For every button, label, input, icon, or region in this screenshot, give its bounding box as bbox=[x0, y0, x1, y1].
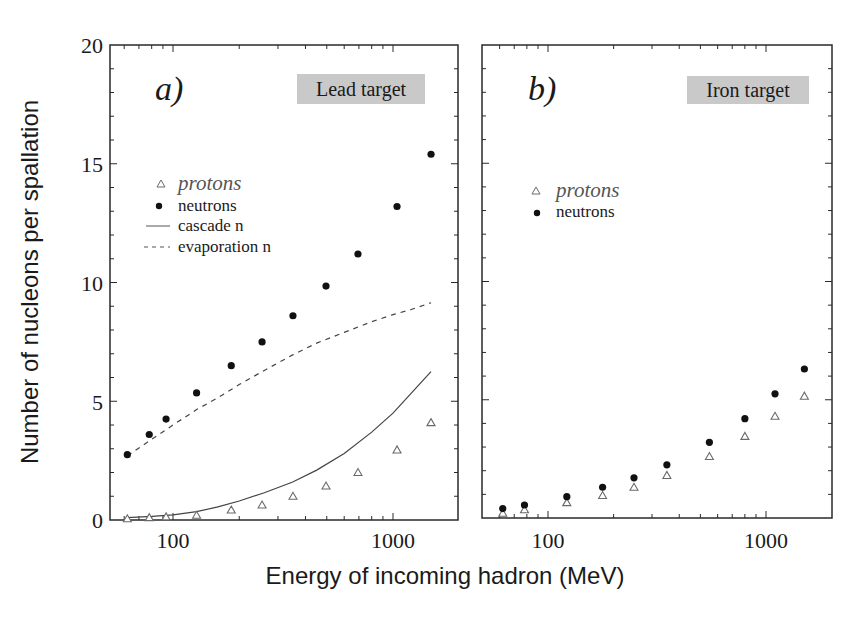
spallation-figure: Number of nucleons per spallation 0 5 10… bbox=[0, 0, 857, 620]
neutron-point bbox=[741, 415, 748, 422]
neutron-point bbox=[228, 362, 235, 369]
legend-b: protons neutrons bbox=[532, 178, 619, 221]
panel-b-letter: b) bbox=[528, 70, 556, 108]
neutron-point bbox=[289, 312, 296, 319]
x-tick-a-100: 100 bbox=[157, 528, 190, 553]
neutron-point bbox=[499, 505, 506, 512]
y-tick-5: 5 bbox=[92, 390, 103, 415]
cascade-n-curve bbox=[127, 372, 431, 518]
neutron-point bbox=[599, 484, 606, 491]
legend-a-cascade: cascade n bbox=[178, 216, 244, 235]
x-tick-a-1000: 1000 bbox=[371, 528, 415, 553]
legend-b-triangle-icon bbox=[532, 187, 540, 194]
proton-point bbox=[258, 501, 266, 508]
neutron-point bbox=[354, 250, 361, 257]
y-tick-0: 0 bbox=[92, 508, 103, 533]
neutron-point bbox=[771, 390, 778, 397]
proton-point bbox=[227, 506, 235, 513]
neutron-point bbox=[801, 365, 808, 372]
legend-a-evaporation: evaporation n bbox=[178, 237, 271, 256]
panel-iron-target: b) Iron target protons neutrons bbox=[482, 45, 832, 518]
proton-point bbox=[630, 483, 638, 490]
x-tick-b-100: 100 bbox=[532, 528, 565, 553]
x-tick-b-1000: 1000 bbox=[744, 528, 788, 553]
legend-b-circle-icon bbox=[534, 210, 540, 216]
proton-point bbox=[771, 412, 779, 419]
proton-point bbox=[741, 432, 749, 439]
neutron-point bbox=[146, 431, 153, 438]
legend-a-circle-icon bbox=[156, 203, 162, 209]
panel-a-frame bbox=[110, 45, 458, 520]
proton-point bbox=[427, 419, 435, 426]
legend-b-protons: protons bbox=[554, 178, 619, 202]
y-tick-10: 10 bbox=[81, 271, 103, 296]
legend-a-neutrons: neutrons bbox=[178, 196, 237, 215]
legend-a-triangle-icon bbox=[157, 180, 165, 187]
proton-point bbox=[800, 392, 808, 399]
proton-point bbox=[663, 471, 671, 478]
neutron-point bbox=[322, 282, 329, 289]
legend-a: protons neutrons cascade n evaporation n bbox=[144, 171, 271, 256]
panel-lead-target: a) Lead target protons neutrons cascade … bbox=[110, 45, 458, 522]
neutron-point bbox=[563, 493, 570, 500]
y-tick-labels: 0 5 10 15 20 bbox=[81, 33, 103, 533]
proton-point bbox=[705, 453, 713, 460]
x-axis-title: Energy of incoming hadron (MeV) bbox=[266, 562, 625, 589]
evaporation-n-curve bbox=[127, 303, 431, 456]
legend-a-protons: protons bbox=[176, 171, 241, 195]
proton-point bbox=[289, 492, 297, 499]
proton-point bbox=[354, 469, 362, 476]
proton-point bbox=[393, 446, 401, 453]
neutron-point bbox=[706, 439, 713, 446]
neutron-point bbox=[393, 203, 400, 210]
neutron-point bbox=[193, 389, 200, 396]
neutron-point bbox=[427, 151, 434, 158]
panel-a-ticks bbox=[110, 45, 458, 520]
y-tick-20: 20 bbox=[81, 33, 103, 58]
proton-point bbox=[599, 492, 607, 499]
panel-b-frame bbox=[482, 45, 832, 518]
iron-target-label: Iron target bbox=[706, 79, 790, 102]
panel-b-ticks bbox=[482, 45, 832, 518]
y-axis-title: Number of nucleons per spallation bbox=[16, 100, 43, 464]
neutron-point bbox=[630, 474, 637, 481]
panel-a-letter: a) bbox=[155, 70, 183, 108]
legend-b-neutrons: neutrons bbox=[556, 202, 615, 221]
lead-target-label: Lead target bbox=[316, 78, 407, 101]
neutron-point bbox=[124, 451, 131, 458]
neutron-point bbox=[521, 501, 528, 508]
neutron-point bbox=[663, 461, 670, 468]
neutron-point bbox=[258, 338, 265, 345]
proton-point bbox=[322, 482, 330, 489]
y-tick-15: 15 bbox=[81, 152, 103, 177]
panel-b-plot bbox=[499, 365, 809, 516]
panel-a-plot bbox=[123, 151, 435, 522]
x-tick-labels: 100 1000 100 1000 bbox=[157, 528, 789, 553]
neutron-point bbox=[162, 415, 169, 422]
